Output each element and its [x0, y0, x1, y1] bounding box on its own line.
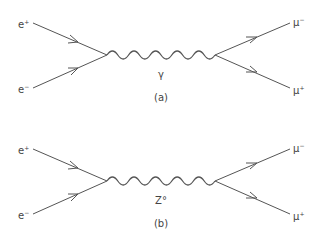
- label-mu-minus: μ−: [293, 142, 304, 154]
- muon-line: [215, 23, 290, 55]
- mediator-label: γ: [158, 69, 164, 80]
- caption-b: (b): [154, 218, 168, 229]
- label-mu-plus: μ+: [293, 210, 304, 222]
- positron-line: [33, 149, 107, 181]
- positron-line: [33, 23, 107, 55]
- arrow-icon: [246, 163, 257, 169]
- feynman-diagrams: e+ e− μ− μ+ γ (a) e+ e− μ− μ+ Z° (b): [0, 0, 323, 233]
- caption-a: (a): [154, 92, 168, 103]
- photon-propagator: [107, 51, 215, 59]
- diagram-b: e+ e− μ− μ+ Z° (b): [18, 142, 304, 229]
- label-e-plus: e+: [18, 18, 29, 30]
- arrow-icon: [246, 37, 257, 43]
- label-mu-minus: μ−: [293, 16, 304, 28]
- label-mu-plus: μ+: [293, 84, 304, 96]
- mediator-label: Z°: [155, 195, 167, 206]
- muon-line: [215, 149, 290, 181]
- label-e-plus: e+: [18, 144, 29, 156]
- z-boson-propagator: [107, 177, 215, 185]
- electron-line: [33, 55, 107, 88]
- label-e-minus: e−: [18, 83, 29, 95]
- diagram-a: e+ e− μ− μ+ γ (a): [18, 16, 304, 103]
- label-e-minus: e−: [18, 209, 29, 221]
- electron-line: [33, 181, 107, 214]
